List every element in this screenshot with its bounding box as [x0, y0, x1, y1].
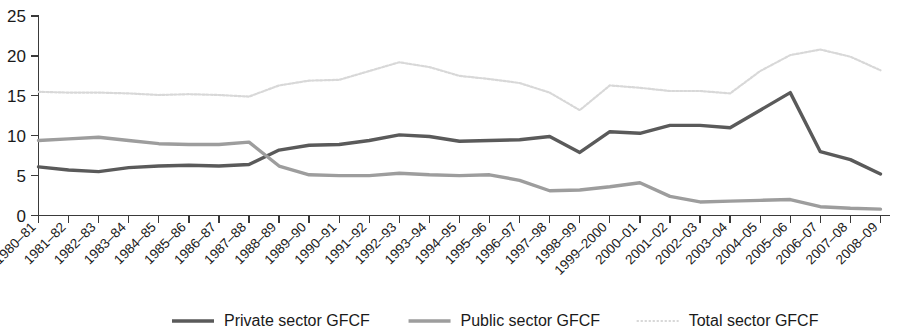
y-tick-label: 5	[17, 167, 26, 186]
data-series	[39, 50, 881, 210]
chart-legend: Private sector GFCFPublic sector GFCFTot…	[172, 312, 819, 329]
x-tick-labels: 1980–811981–821982–831983–841984–851985–…	[0, 219, 881, 278]
legend-label-1: Public sector GFCF	[461, 312, 601, 329]
y-axis: 0510152025	[7, 7, 38, 226]
series-line-0	[39, 93, 881, 174]
y-tick-label: 25	[7, 7, 26, 26]
y-tick-label: 15	[7, 87, 26, 106]
series-line-2	[39, 50, 881, 111]
y-tick-label: 10	[7, 127, 26, 146]
legend-label-2: Total sector GFCF	[689, 312, 819, 329]
chart-container: 0510152025 1980–811981–821982–831983–841…	[0, 0, 897, 336]
y-tick-label: 20	[7, 47, 26, 66]
x-axis	[39, 216, 891, 223]
legend-label-0: Private sector GFCF	[224, 312, 370, 329]
series-line-1	[39, 137, 881, 209]
line-chart: 0510152025 1980–811981–821982–831983–841…	[0, 0, 897, 336]
